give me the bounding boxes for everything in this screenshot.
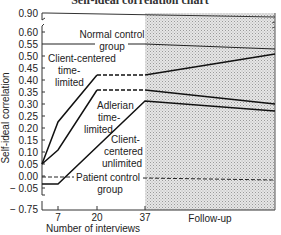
label-adl-2: time- — [98, 112, 120, 123]
svg-text:0.30: 0.30 — [19, 99, 39, 110]
label-ccu-2: centered — [104, 146, 143, 157]
svg-text:0.20: 0.20 — [19, 123, 39, 134]
svg-text:7: 7 — [55, 212, 61, 223]
label-cct-3: limited — [55, 77, 84, 88]
svg-text:0.55: 0.55 — [19, 39, 39, 50]
label-pat-1: Patient control — [76, 172, 140, 183]
svg-text:0.00: 0.00 — [19, 171, 39, 182]
svg-text:20: 20 — [91, 212, 103, 223]
svg-text:0.45: 0.45 — [19, 63, 39, 74]
svg-text:− 0.75: − 0.75 — [10, 204, 39, 215]
svg-text:37: 37 — [139, 212, 151, 223]
label-normal-2: group — [99, 41, 125, 52]
label-ccu-1: Client- — [111, 134, 140, 145]
label-adl-3: limited — [84, 124, 113, 135]
svg-text:0.50: 0.50 — [19, 51, 39, 62]
follow-up-label: Follow-up — [188, 213, 232, 224]
y-axis — [42, 13, 46, 210]
svg-text:0.60: 0.60 — [19, 27, 39, 38]
svg-text:0.05: 0.05 — [19, 159, 39, 170]
self-ideal-correlation-chart: 0.90 0.60 0.55 0.50 0.45 0.40 0.35 0.30 … — [0, 0, 281, 235]
follow-up-shaded-region — [145, 13, 275, 210]
svg-text:0.15: 0.15 — [19, 135, 39, 146]
label-cct-1: Client-centered — [48, 53, 116, 64]
label-pat-2: group — [97, 184, 123, 195]
svg-text:0.35: 0.35 — [19, 87, 39, 98]
label-normal-1: Normal control — [79, 29, 144, 40]
x-tick-labels: 7 20 37 — [55, 212, 151, 223]
label-ccu-3: unlimited — [102, 158, 142, 169]
x-axis-label: Number of interviews — [46, 223, 140, 234]
svg-text:− 0.05: − 0.05 — [10, 183, 39, 194]
svg-text:0.10: 0.10 — [19, 147, 39, 158]
y-tick-labels: 0.90 0.60 0.55 0.50 0.45 0.40 0.35 0.30 … — [10, 8, 39, 215]
label-cct-2: time- — [58, 65, 80, 76]
y-axis-label: Self-ideal correlation — [0, 72, 11, 163]
label-adl-1: Adlerian — [97, 100, 134, 111]
svg-text:0.40: 0.40 — [19, 75, 39, 86]
svg-text:0.90: 0.90 — [19, 8, 39, 19]
svg-text:0.25: 0.25 — [19, 111, 39, 122]
